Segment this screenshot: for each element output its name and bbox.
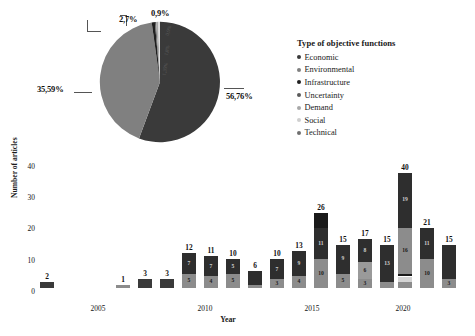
bar-segment: 13 — [380, 245, 394, 282]
bar-segment — [160, 279, 174, 288]
bar-segment: 4 — [292, 276, 306, 288]
bar-segment-value: 4 — [210, 279, 213, 285]
bar-segment: 5 — [336, 274, 350, 288]
pie-leader-infrastructure-h — [87, 31, 101, 32]
bar-segment-value: 5 — [342, 278, 345, 284]
legend-item-label: Uncertainty — [305, 91, 345, 100]
legend-item-demand[interactable]: Demand — [297, 101, 427, 114]
bar-segment-value: 11 — [424, 241, 429, 247]
bar-segment-value: 13 — [384, 261, 390, 267]
pie-leader-environmental — [74, 92, 92, 93]
bar-segment: 5 — [182, 274, 196, 288]
bar-total-label: 15 — [442, 235, 456, 244]
legend-item-label: Environmental — [305, 65, 355, 74]
pie-label-uncertainty: 0,9% — [151, 8, 169, 18]
bar-segment-value: 3 — [364, 281, 367, 287]
legend-item-label: Infrastructure — [305, 78, 351, 87]
bar-segment: 4 — [204, 276, 218, 288]
x-tick-2005: 2005 — [81, 304, 115, 313]
legend: Type of objective functions Economic Env… — [297, 38, 427, 139]
bar-segment — [248, 285, 262, 288]
legend-title: Type of objective functions — [297, 38, 427, 48]
bar-segment: 7 — [270, 259, 284, 279]
bar-total-label: 40 — [398, 163, 412, 172]
bar-segment-value: 7 — [188, 261, 191, 267]
legend-item-environmental[interactable]: Environmental — [297, 64, 427, 77]
bar-segment — [314, 213, 328, 227]
bar-segment-value: 9 — [342, 256, 345, 262]
bar-total-label: 12 — [182, 243, 196, 252]
bar-segment-value: 6 — [364, 268, 367, 274]
bar-2007[interactable]: 5712 — [182, 253, 196, 288]
bar-2010[interactable]: 6 — [248, 271, 262, 288]
bar-segment-value: 11 — [318, 241, 323, 247]
bar-2016[interactable]: 1315 — [380, 245, 394, 288]
legend-item-uncertainty[interactable]: Uncertainty — [297, 89, 427, 102]
bar-2008[interactable]: 4711 — [204, 256, 218, 288]
bar-segment — [380, 282, 394, 288]
bar-2006[interactable]: 3 — [160, 279, 174, 288]
bar-segment: 5 — [226, 274, 240, 288]
bar-segment-value: 9 — [298, 261, 301, 267]
legend-item-economic[interactable]: Economic — [297, 51, 427, 64]
bar-segment: 9 — [336, 245, 350, 274]
legend-swatch-icon — [297, 131, 301, 135]
legend-swatch-icon — [297, 93, 301, 97]
bar-segment: 3 — [358, 279, 372, 288]
bar-total-label: 6 — [248, 261, 262, 270]
legend-swatch-icon — [297, 118, 301, 122]
bar-segment-value: 16 — [402, 248, 408, 254]
bar-total-label: 2 — [40, 272, 54, 281]
bar-segment-value: 8 — [364, 248, 367, 254]
bar-2012[interactable]: 4913 — [292, 251, 306, 288]
legend-swatch-icon — [297, 55, 301, 59]
bar-total-label: 17 — [358, 229, 372, 238]
legend-swatch-icon — [297, 80, 301, 84]
legend-item-label: Social — [305, 116, 326, 125]
bar-segment-value: 3 — [276, 281, 279, 287]
legend-item-social[interactable]: Social — [297, 114, 427, 127]
bar-2004[interactable]: 1 — [116, 285, 130, 288]
bar-2003[interactable]: 2 — [40, 282, 54, 288]
bar-segment — [248, 271, 262, 285]
bar-total-label: 10 — [270, 249, 284, 258]
bar-total-label: 15 — [380, 235, 394, 244]
bar-2014[interactable]: 5915 — [336, 245, 350, 288]
bar-total-label: 3 — [138, 269, 152, 278]
pie-label-infrastructure: 2,7% — [119, 14, 137, 24]
x-tick-2020: 2020 — [386, 304, 420, 313]
bar-total-label: 26 — [314, 203, 328, 212]
bar-segment: 16 — [398, 228, 412, 274]
bar-2009[interactable]: 5510 — [226, 259, 240, 288]
bar-2017[interactable]: 161940 — [398, 173, 412, 288]
bar-segment-value: 10 — [318, 271, 324, 277]
bar-total-label: 21 — [420, 218, 434, 227]
bar-total-label: 15 — [336, 235, 350, 244]
bar-total-label: 11 — [204, 246, 218, 255]
bar-segment: 8 — [358, 239, 372, 262]
bar-2019[interactable]: 315 — [442, 245, 456, 288]
bar-segment — [398, 277, 412, 283]
bar-segment: 11 — [314, 228, 328, 260]
bar-segment: 5 — [226, 259, 240, 273]
bar-2015[interactable]: 36817 — [358, 239, 372, 288]
bar-segment: 10 — [314, 259, 328, 288]
bar-2013[interactable]: 101126 — [314, 213, 328, 288]
bar-2005[interactable]: 3 — [138, 279, 152, 288]
bar-segment-value: 7 — [276, 267, 279, 273]
bar-x-axis-label: Year — [188, 315, 268, 324]
bar-segment — [398, 282, 412, 288]
legend-item-infrastructure[interactable]: Infrastructure — [297, 76, 427, 89]
bar-segment-value: 5 — [232, 278, 235, 284]
bar-2011[interactable]: 3710 — [270, 259, 284, 288]
bar-segment-value: 4 — [298, 279, 301, 285]
bar-segment: 10 — [420, 259, 434, 288]
bar-segment: 3 — [270, 279, 284, 288]
bar-segment: 6 — [358, 262, 372, 279]
legend-swatch-icon — [297, 106, 301, 110]
bar-2018[interactable]: 101121 — [420, 228, 434, 288]
bar-total-label: 13 — [292, 241, 306, 250]
bar-segment-value: 3 — [448, 281, 451, 287]
bar-segment — [116, 285, 130, 288]
legend-item-technical[interactable]: Technical — [297, 127, 427, 140]
